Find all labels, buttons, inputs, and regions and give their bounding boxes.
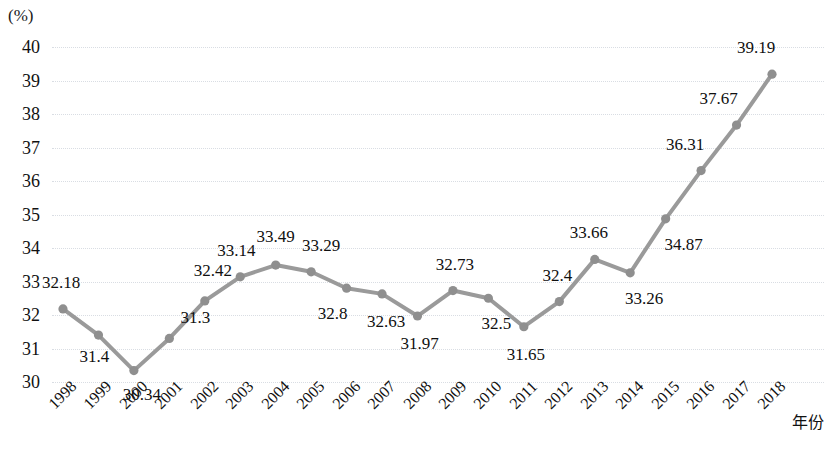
data-point-marker[interactable]: [732, 120, 741, 129]
data-point-label: 32.18: [42, 273, 80, 293]
data-point-marker[interactable]: [413, 311, 422, 320]
data-point-marker[interactable]: [236, 272, 245, 281]
data-point-label: 31.65: [507, 345, 545, 365]
data-point-label: 32.73: [436, 255, 474, 275]
data-point-label: 32.63: [367, 312, 405, 332]
data-point-label: 34.87: [665, 235, 703, 255]
data-point-label: 31.4: [80, 347, 110, 367]
data-point-marker[interactable]: [767, 70, 776, 79]
data-point-marker[interactable]: [697, 166, 706, 175]
data-point-label: 32.42: [194, 261, 232, 281]
x-axis-title: 年份: [792, 409, 824, 433]
data-point-marker[interactable]: [555, 297, 564, 306]
data-point-marker[interactable]: [200, 296, 209, 305]
data-point-label: 33.49: [257, 227, 295, 247]
data-point-label: 39.19: [737, 38, 775, 58]
data-point-marker[interactable]: [307, 267, 316, 276]
data-point-marker[interactable]: [94, 331, 103, 340]
data-point-marker[interactable]: [342, 284, 351, 293]
data-point-label: 32.4: [542, 266, 572, 286]
data-point-marker[interactable]: [448, 286, 457, 295]
data-point-label: 33.66: [570, 223, 608, 243]
data-point-marker[interactable]: [626, 268, 635, 277]
data-point-marker[interactable]: [129, 366, 138, 375]
data-point-label: 33.14: [217, 241, 255, 261]
data-point-marker[interactable]: [271, 260, 280, 269]
data-point-label: 31.97: [400, 334, 438, 354]
data-point-marker[interactable]: [484, 294, 493, 303]
data-point-label: 32.8: [318, 304, 348, 324]
data-point-marker[interactable]: [590, 255, 599, 264]
line-chart: (%) 4039383736353433323130 32.1831.430.3…: [0, 0, 826, 449]
data-point-marker[interactable]: [661, 214, 670, 223]
data-point-marker[interactable]: [58, 304, 67, 313]
data-point-label: 33.29: [302, 236, 340, 256]
data-point-label: 36.31: [666, 135, 704, 155]
data-point-label: 32.5: [482, 314, 512, 334]
data-point-label: 31.3: [180, 308, 210, 328]
data-point-marker[interactable]: [519, 322, 528, 331]
data-point-marker[interactable]: [165, 334, 174, 343]
data-point-marker[interactable]: [377, 289, 386, 298]
data-point-label: 37.67: [699, 89, 737, 109]
data-point-label: 33.26: [625, 289, 663, 309]
